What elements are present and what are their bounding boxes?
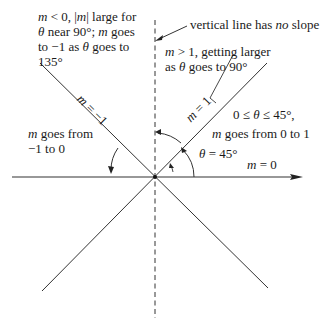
top-left-note-line3: to −1 as θ goes to: [38, 40, 129, 54]
theta-45-label: θ = 45°: [199, 147, 237, 161]
top-right-note-line1: m > 1, getting larger: [165, 45, 271, 59]
m-0-label: m = 0: [247, 158, 277, 172]
left-note-line2: −1 to 0: [28, 142, 65, 156]
note-text: vertical line has: [190, 17, 276, 32]
top-left-note-line1: m < 0, |m| large for: [38, 10, 136, 24]
arc-arrow-icon: [181, 147, 187, 153]
left-note-line1: m goes from: [28, 127, 93, 141]
vertical-line-note: vertical line has no slope: [190, 18, 319, 32]
vertical-note-pointer: [159, 26, 187, 39]
top-left-note-line2: θ near 90°; m goes: [38, 25, 135, 39]
arrow-icon: [155, 35, 163, 41]
note-text-end: slope: [289, 17, 320, 32]
top-left-note-line4: 135°: [38, 55, 63, 69]
origin-dot: [153, 175, 157, 179]
left-arc-arrow-icon: [108, 166, 114, 174]
upper-arc: [158, 133, 181, 143]
theta-arc: [183, 150, 194, 177]
note-emphasis: no: [276, 17, 289, 32]
upper-arc-arrow-icon: [155, 129, 161, 135]
right-note-line2: m goes from 0 to 1: [212, 127, 310, 141]
top-right-note-line2: as θ goes to 90°: [165, 60, 247, 74]
small-arc-arrow-icon: [169, 163, 174, 168]
right-note-line1: 0 ≤ θ ≤ 45°,: [233, 108, 295, 122]
